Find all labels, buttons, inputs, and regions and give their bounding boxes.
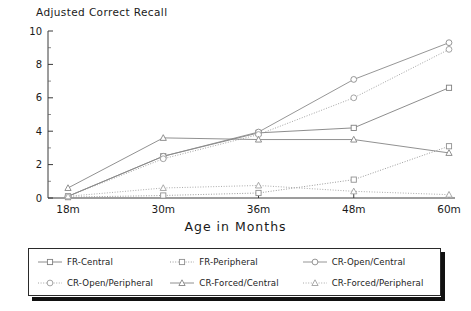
line-chart-svg: 024681018m30m36m48m60m bbox=[0, 0, 471, 215]
x-tick-label: 30m bbox=[151, 203, 175, 215]
series-line bbox=[68, 146, 449, 197]
marker-circle bbox=[351, 95, 357, 101]
x-axis-title: Age in Months bbox=[0, 219, 471, 234]
legend-label: CR-Forced/Central bbox=[199, 278, 278, 288]
marker-circle bbox=[47, 280, 53, 286]
y-tick-label: 0 bbox=[36, 193, 42, 204]
marker-circle bbox=[446, 46, 452, 52]
legend-label: FR-Peripheral bbox=[199, 257, 257, 267]
series-cr-open-central bbox=[65, 40, 452, 199]
marker-triangle bbox=[160, 185, 166, 191]
legend-label: CR-Open/Peripheral bbox=[67, 278, 153, 288]
axis-spine bbox=[48, 31, 455, 198]
y-tick-label: 8 bbox=[36, 59, 42, 70]
series-cr-open-peripheral bbox=[65, 46, 452, 199]
x-tick-label: 36m bbox=[247, 203, 271, 215]
legend-item-cr-forced-peripheral[interactable]: CR-Forced/Peripheral bbox=[302, 277, 434, 289]
legend-swatch bbox=[169, 256, 195, 268]
marker-square bbox=[446, 144, 451, 149]
series-line bbox=[68, 138, 449, 188]
y-tick-label: 4 bbox=[36, 126, 42, 137]
legend-item-cr-open-peripheral[interactable]: CR-Open/Peripheral bbox=[37, 277, 169, 289]
legend-item-fr-central[interactable]: FR-Central bbox=[37, 256, 169, 268]
marker-circle bbox=[160, 156, 166, 162]
marker-triangle bbox=[446, 191, 452, 197]
x-tick-label: 48m bbox=[342, 203, 366, 215]
x-tick-label: 60m bbox=[437, 203, 461, 215]
y-tick-label: 10 bbox=[29, 26, 42, 37]
marker-triangle bbox=[312, 279, 318, 285]
plot-area: Adjusted Correct Recall 024681018m30m36m… bbox=[0, 0, 471, 245]
marker-circle bbox=[312, 259, 318, 265]
legend-swatch bbox=[302, 256, 328, 268]
marker-square bbox=[180, 259, 185, 264]
marker-circle bbox=[351, 77, 357, 83]
series-line bbox=[68, 49, 449, 196]
marker-square bbox=[351, 125, 356, 130]
marker-square bbox=[446, 85, 451, 90]
legend-swatch bbox=[302, 277, 328, 289]
chart-page: Adjusted Correct Recall 024681018m30m36m… bbox=[0, 0, 471, 311]
legend-label: FR-Central bbox=[67, 257, 113, 267]
marker-square bbox=[161, 193, 166, 198]
chart-legend: FR-CentralFR-PeripheralCR-Open/CentralCR… bbox=[28, 248, 441, 296]
marker-square bbox=[47, 259, 52, 264]
marker-triangle bbox=[65, 185, 71, 191]
series-line bbox=[68, 43, 449, 197]
y-tick-label: 2 bbox=[36, 159, 42, 170]
y-tick-label: 6 bbox=[36, 92, 42, 103]
marker-triangle bbox=[255, 182, 261, 188]
legend-shadow bbox=[32, 297, 445, 301]
marker-circle bbox=[446, 40, 452, 46]
legend-swatch bbox=[37, 277, 63, 289]
legend-swatch bbox=[37, 256, 63, 268]
legend-item-cr-open-central[interactable]: CR-Open/Central bbox=[302, 256, 434, 268]
legend-swatch bbox=[169, 277, 195, 289]
legend-item-cr-forced-central[interactable]: CR-Forced/Central bbox=[169, 277, 301, 289]
marker-square bbox=[256, 190, 261, 195]
legend-shadow-right bbox=[441, 252, 445, 301]
legend-grid: FR-CentralFR-PeripheralCR-Open/CentralCR… bbox=[29, 249, 440, 295]
legend-label: CR-Forced/Peripheral bbox=[332, 278, 424, 288]
legend-label: CR-Open/Central bbox=[332, 257, 406, 267]
marker-square bbox=[351, 177, 356, 182]
legend-item-fr-peripheral[interactable]: FR-Peripheral bbox=[169, 256, 301, 268]
x-tick-label: 18m bbox=[56, 203, 80, 215]
